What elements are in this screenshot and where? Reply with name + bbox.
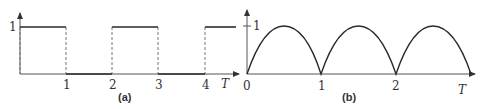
x-axis-label-a: T [221,77,230,91]
x-tick-1-a: 1 [63,78,71,92]
x-tick-3-a: 3 [155,78,163,92]
y-tick-1-b: 1 [253,19,261,33]
caption-a: (a) [118,91,132,103]
x-axis-label-b: T [458,83,467,97]
x-tick-1-b: 1 [318,79,326,93]
caption-b: (b) [342,91,356,103]
dashed-edges-a [20,27,205,74]
rectified-sine-curve [247,26,471,74]
panel-a: 1 1 2 3 4 T (a) [9,13,239,103]
square-wave [20,27,236,74]
figure: 1 1 2 3 4 T (a) 1 0 1 2 T (b) [0,0,484,109]
x-tick-4-a: 4 [202,78,210,92]
x-tick-0-b: 0 [243,79,251,93]
x-tick-2-a: 2 [109,78,117,92]
y-tick-1-a: 1 [9,20,17,34]
x-tick-2-b: 2 [392,79,400,93]
panel-b: 1 0 1 2 T (b) [243,10,475,103]
